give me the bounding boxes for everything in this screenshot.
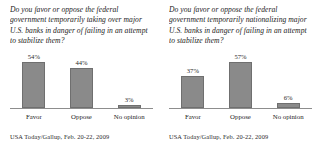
bar-favor-left — [22, 62, 45, 108]
bar-group-oppose-right: 57% — [217, 53, 264, 108]
plot-area-left: 54% 44% 3% — [10, 53, 153, 109]
bar-chart-left: 54% 44% 3% Favor Oppose — [10, 53, 153, 125]
bar-oppose-left — [70, 68, 93, 108]
bar-chart-right: 37% 57% 6% Favor Oppose — [169, 53, 312, 125]
bar-group-no-opinion-left: 3% — [106, 53, 153, 108]
x-label-oppose-left: Oppose — [58, 112, 105, 121]
bar-oppose-right — [229, 62, 252, 108]
x-axis-line-right — [169, 108, 312, 109]
x-label-oppose-right: Oppose — [217, 112, 264, 121]
question-text-left: Do you favor or oppose the federal gover… — [10, 5, 151, 51]
bar-value-no-opinion-right: 6% — [284, 94, 293, 102]
bar-group-favor-left: 54% — [10, 53, 57, 108]
chart-panel-right: Do you favor or oppose the federal gover… — [159, 0, 318, 156]
bar-value-no-opinion-left: 3% — [125, 96, 134, 104]
question-text-right: Do you favor or oppose the federal gover… — [169, 5, 310, 51]
bar-group-no-opinion-right: 6% — [265, 53, 312, 108]
x-label-no-opinion-left: No opinion — [106, 112, 153, 121]
bar-favor-right — [181, 76, 204, 108]
chart-panel-left: Do you favor or oppose the federal gover… — [0, 0, 159, 156]
bar-value-favor-right: 37% — [187, 67, 199, 75]
chart-pair-container: Do you favor or oppose the federal gover… — [0, 0, 318, 156]
x-label-no-opinion-right: No opinion — [265, 112, 312, 121]
bar-value-oppose-left: 44% — [75, 59, 87, 67]
bar-series-left: 54% 44% 3% — [10, 53, 153, 108]
x-axis-labels-left: Favor Oppose No opinion — [10, 112, 153, 121]
plot-area-right: 37% 57% 6% — [169, 53, 312, 109]
source-note-right: USA Today/Gallup, Feb. 20-22, 2009 — [169, 133, 310, 141]
x-label-favor-right: Favor — [169, 112, 216, 121]
bar-series-right: 37% 57% 6% — [169, 53, 312, 108]
x-axis-line-left — [10, 108, 153, 109]
bar-group-favor-right: 37% — [169, 53, 216, 108]
x-axis-labels-right: Favor Oppose No opinion — [169, 112, 312, 121]
source-note-left: USA Today/Gallup, Feb. 20-22, 2009 — [10, 133, 151, 141]
x-label-favor-left: Favor — [10, 112, 57, 121]
bar-value-favor-left: 54% — [28, 53, 40, 61]
bar-value-oppose-right: 57% — [234, 53, 246, 61]
bar-group-oppose-left: 44% — [58, 53, 105, 108]
